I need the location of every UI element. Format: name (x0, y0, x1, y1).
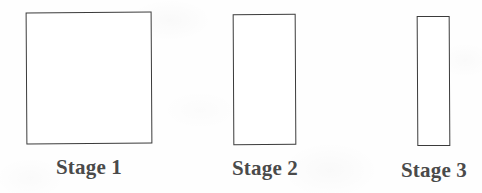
figure-canvas: Stage 1 Stage 2 Stage 3 (0, 0, 482, 193)
stage-3-label: Stage 3 (374, 160, 482, 181)
stage-1-label: Stage 1 (26, 157, 152, 178)
stage-1-rectangle (26, 12, 153, 145)
stage-2-label: Stage 2 (205, 158, 325, 179)
stage-2-rectangle (233, 14, 297, 145)
stage-3-rectangle (417, 16, 451, 146)
